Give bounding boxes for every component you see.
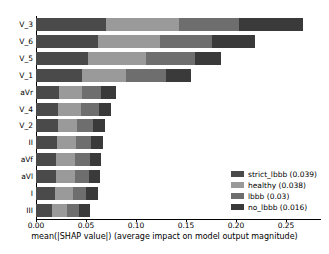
- y-axis-tick-label: aVr: [1, 86, 33, 99]
- legend-item: no_lbbb (0.016): [231, 202, 327, 212]
- bar-segment: [93, 119, 105, 132]
- shap-summary-chart: V_3V_6V_5V_1aVrV_4V_2IIaVfaVlIIII 0.000.…: [0, 0, 329, 254]
- bar-segment: [77, 119, 93, 132]
- bar-segment: [75, 153, 90, 166]
- bar-segment: [36, 69, 82, 82]
- bar-segment: [98, 35, 160, 48]
- y-axis-tick-label: aVf: [1, 153, 33, 166]
- bar-segment: [179, 18, 239, 31]
- bar-segment: [36, 103, 58, 116]
- y-axis-tick-label: III: [1, 204, 33, 217]
- x-tick-label: 0.00: [28, 221, 45, 230]
- bar-segment: [55, 187, 73, 200]
- stacked-bar: [36, 119, 105, 132]
- legend-item: strict_lbbb (0.039): [231, 169, 327, 179]
- legend-label: strict_lbbb (0.039): [248, 170, 317, 179]
- legend-label: lbbb (0.03): [248, 192, 289, 201]
- stacked-bar: [36, 86, 116, 99]
- bar-segment: [88, 52, 146, 65]
- bar-segment: [90, 153, 101, 166]
- bar-segment: [82, 69, 126, 82]
- legend-item: healthy (0.038): [231, 180, 327, 190]
- bar-segment: [36, 204, 52, 217]
- stacked-bar: [36, 52, 221, 65]
- legend: strict_lbbb (0.039)healthy (0.038)lbbb (…: [231, 169, 327, 213]
- bar-segment: [101, 86, 116, 99]
- bar-segment: [81, 103, 99, 116]
- bar-segment: [36, 18, 106, 31]
- legend-swatch: [231, 193, 244, 199]
- legend-item: lbbb (0.03): [231, 191, 327, 201]
- stacked-bar: [36, 18, 303, 31]
- x-tick-label: 0.10: [128, 221, 145, 230]
- bar-segment: [126, 69, 166, 82]
- bar-segment: [58, 119, 77, 132]
- y-axis-tick-label: V_3: [1, 18, 33, 31]
- stacked-bar: [36, 69, 191, 82]
- bar-segment: [99, 103, 111, 116]
- bar-segment: [56, 170, 75, 183]
- bar-segment: [79, 204, 90, 217]
- stacked-bar: [36, 204, 90, 217]
- bar-segment: [52, 204, 67, 217]
- bar-segment: [106, 18, 179, 31]
- bar-segment: [146, 52, 195, 65]
- x-tick-label: 0.15: [178, 221, 195, 230]
- stacked-bar: [36, 35, 255, 48]
- y-axis-tick-labels: V_3V_6V_5V_1aVrV_4V_2IIaVfaVlIIII: [0, 16, 33, 219]
- stacked-bar: [36, 153, 101, 166]
- bar-segment: [36, 187, 55, 200]
- y-axis-tick-label: V_4: [1, 103, 33, 116]
- bar-segment: [89, 170, 100, 183]
- x-tick-label: 0.20: [228, 221, 245, 230]
- bar-segment: [212, 35, 255, 48]
- bar-segment: [36, 35, 98, 48]
- bar-segment: [36, 136, 57, 149]
- bar-segment: [91, 136, 103, 149]
- y-axis-tick-label: V_5: [1, 52, 33, 65]
- x-axis-label: mean(|SHAP value|) (average impact on mo…: [0, 232, 329, 241]
- bar-segment: [86, 187, 98, 200]
- stacked-bar: [36, 103, 111, 116]
- y-axis-tick-label: I: [1, 187, 33, 200]
- legend-swatch: [231, 171, 244, 177]
- bar-segment: [166, 69, 191, 82]
- bar-segment: [76, 136, 91, 149]
- bar-segment: [73, 187, 86, 200]
- legend-label: no_lbbb (0.016): [248, 203, 307, 212]
- y-axis-tick-label: aVl: [1, 170, 33, 183]
- bar-segment: [36, 86, 59, 99]
- bar-segment: [195, 52, 221, 65]
- x-tick-label: 0.25: [278, 221, 295, 230]
- bar-segment: [58, 103, 81, 116]
- legend-swatch: [231, 182, 244, 188]
- bar-segment: [36, 170, 56, 183]
- bar-segment: [56, 153, 75, 166]
- bar-segment: [36, 52, 88, 65]
- stacked-bar: [36, 187, 98, 200]
- y-axis-tick-label: V_2: [1, 119, 33, 132]
- stacked-bar: [36, 170, 100, 183]
- bar-segment: [75, 170, 89, 183]
- bar-segment: [59, 86, 82, 99]
- bar-segment: [36, 119, 58, 132]
- bar-segment: [67, 204, 79, 217]
- bar-segment: [36, 153, 56, 166]
- bar-segment: [82, 86, 101, 99]
- bar-segment: [160, 35, 212, 48]
- y-axis-tick-label: II: [1, 136, 33, 149]
- y-axis-tick-label: V_1: [1, 69, 33, 82]
- legend-label: healthy (0.038): [248, 181, 306, 190]
- x-axis-line: [36, 219, 321, 220]
- y-axis-tick-label: V_6: [1, 35, 33, 48]
- x-tick-label: 0.05: [78, 221, 95, 230]
- bar-segment: [57, 136, 76, 149]
- legend-swatch: [231, 204, 244, 210]
- bar-segment: [239, 18, 303, 31]
- stacked-bar: [36, 136, 103, 149]
